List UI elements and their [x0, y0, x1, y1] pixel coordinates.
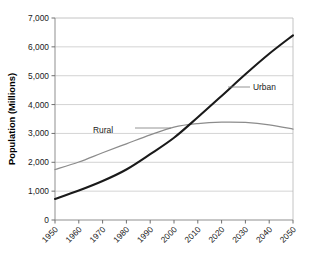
y-tick-label: 7,000: [28, 13, 49, 23]
y-axis-title: Population (Millions): [6, 73, 17, 165]
series-label-urban: Urban: [253, 82, 276, 92]
y-tick-label: 5,000: [28, 71, 49, 81]
y-tick-label: 4,000: [28, 100, 49, 110]
y-tick-label: 0: [44, 215, 49, 225]
series-label-rural: Rural: [93, 125, 113, 135]
y-tick-label: 6,000: [28, 42, 49, 52]
y-tick-label: 3,000: [28, 128, 49, 138]
y-tick-label: 2,000: [28, 157, 49, 167]
y-tick-label: 1,000: [28, 186, 49, 196]
population-line-chart: 01,0002,0003,0004,0005,0006,0007,000 195…: [0, 0, 311, 260]
chart-svg: 01,0002,0003,0004,0005,0006,0007,000 195…: [0, 0, 311, 260]
